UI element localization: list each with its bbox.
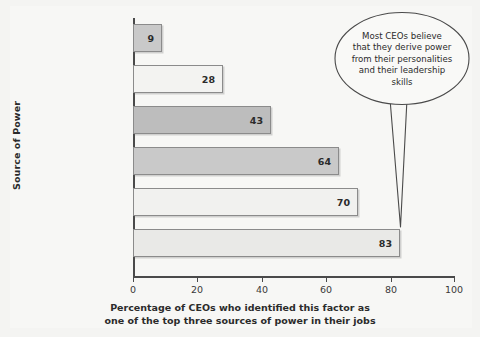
x-tick-label-100: 100 xyxy=(445,284,463,295)
bar-support-financial-community: 9 xyxy=(133,24,162,52)
x-tick-20 xyxy=(197,276,198,282)
y-axis-title: Source of Power xyxy=(11,86,22,206)
x-axis-caption-line2: one of the top three sources of power in… xyxy=(0,315,480,328)
callout-line-5: skills xyxy=(342,77,462,88)
bar-expertise-and-knowledge: 43 xyxy=(133,106,271,134)
callout-line-3: from their personalities xyxy=(342,54,462,65)
callout-annotation: Most CEOs believe that they derive power… xyxy=(334,11,470,106)
x-tick-40 xyxy=(262,276,263,282)
x-tick-label-0: 0 xyxy=(130,284,136,295)
x-tick-80 xyxy=(391,276,392,282)
bar-support-senior-colleagues: 64 xyxy=(133,147,339,175)
x-tick-0 xyxy=(133,276,134,282)
bar-value-label: 64 xyxy=(318,156,331,167)
bar-value-label: 28 xyxy=(202,74,215,85)
x-tick-label-40: 40 xyxy=(256,284,268,295)
chart-figure: Source of Power 0 20 40 60 80 100 9 Supp… xyxy=(0,0,480,337)
bar-value-label: 43 xyxy=(250,115,263,126)
bar-management-decision-control: 28 xyxy=(133,65,223,93)
callout-line-2: that they derive power xyxy=(342,42,462,53)
x-tick-label-20: 20 xyxy=(191,284,203,295)
callout-line-4: and their leadership xyxy=(342,65,462,76)
x-axis-caption: Percentage of CEOs who identified this f… xyxy=(0,302,480,327)
x-tick-60 xyxy=(326,276,327,282)
callout-text: Most CEOs believe that they derive power… xyxy=(342,31,462,88)
callout-line-1: Most CEOs believe xyxy=(342,31,462,42)
x-tick-100 xyxy=(454,276,455,282)
bar-value-label: 9 xyxy=(147,33,154,44)
x-axis-line xyxy=(133,276,455,278)
bar-support-board-of-directors: 70 xyxy=(133,188,358,216)
x-tick-label-60: 60 xyxy=(320,284,332,295)
x-axis-caption-line1: Percentage of CEOs who identified this f… xyxy=(0,302,480,315)
x-tick-label-80: 80 xyxy=(385,284,397,295)
